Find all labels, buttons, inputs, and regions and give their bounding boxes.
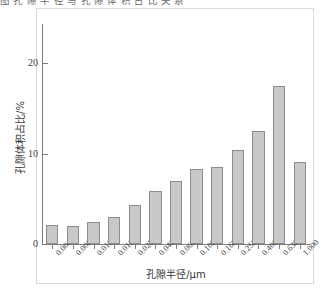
bar-0.040 [149,191,161,244]
x-tick-0.250 [238,245,239,249]
bar-0.063 [170,181,182,244]
bar-0.160 [211,167,223,244]
bar-0.025 [129,205,141,244]
bar-0.100 [190,169,202,244]
x-tick-1.000 [300,245,301,249]
bar-0.006 [67,226,79,244]
bar-0.016 [108,217,120,244]
x-tick-0.400 [258,245,259,249]
y-tick-label-20: 20 [16,58,38,68]
y-tick-0 [43,244,48,245]
bar-0.250 [232,150,244,244]
x-tick-0.006 [73,245,74,249]
x-tick-0.040 [155,245,156,249]
x-tick-0.004 [52,245,53,249]
bar-1.000 [294,162,306,244]
bar-0.010 [87,222,99,244]
bar-0.630 [273,86,285,244]
x-tick-0.025 [135,245,136,249]
x-tick-0.100 [197,245,198,249]
x-tick-0.630 [279,245,280,249]
x-tick-0.063 [176,245,177,249]
bar-0.400 [252,131,264,244]
x-tick-0.160 [217,245,218,249]
x-axis-title: 孔隙半径/μm [42,266,310,281]
y-tick-10 [43,154,48,155]
bar-0.004 [46,225,58,244]
y-tick-label-0: 0 [16,239,38,249]
y-axis-line [42,24,43,245]
y-tick-20 [43,63,48,64]
x-tick-0.010 [94,245,95,249]
y-axis-title: 孔隙体积占比/% [12,83,27,193]
x-tick-0.016 [114,245,115,249]
bar-chart: 10200 0.0040.0060.0100.0160.0250.0400.06… [0,0,322,292]
